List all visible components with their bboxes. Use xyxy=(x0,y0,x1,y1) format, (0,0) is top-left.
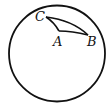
diagram-canvas: C A B xyxy=(0,0,111,109)
sphere-diagram: C A B xyxy=(0,0,111,109)
vertex-label-c: C xyxy=(35,9,45,24)
vertex-label-a: A xyxy=(52,34,62,49)
arc-cb xyxy=(46,17,88,35)
sphere-outline xyxy=(9,6,105,102)
vertex-label-b: B xyxy=(86,34,97,49)
